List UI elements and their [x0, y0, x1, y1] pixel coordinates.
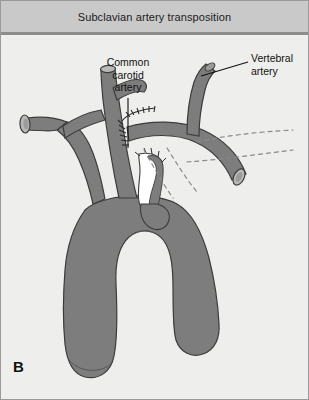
- label-common-carotid-artery: Common carotid artery: [97, 56, 159, 94]
- dashed-course-lower: [187, 150, 293, 162]
- aortic-arch-and-aorta: [64, 196, 220, 378]
- carotid-arch-junction-group: [63, 110, 105, 138]
- panel-letter: B: [13, 358, 24, 375]
- label-vertebral-line2: artery: [251, 65, 307, 78]
- label-carotid-line3: artery: [97, 81, 159, 94]
- carotid-arch-connecting-limb: [63, 110, 105, 138]
- label-vertebral-artery: Vertebral artery: [251, 52, 307, 77]
- brachiocephalic-trunk-group: [19, 115, 105, 204]
- illustration-canvas: Common carotid artery Vertebral artery B: [1, 38, 308, 399]
- label-carotid-line1: Common: [97, 56, 159, 69]
- label-vertebral-line1: Vertebral: [251, 52, 307, 65]
- dashed-origin-right: [167, 148, 197, 192]
- vertebral-artery: [187, 64, 215, 136]
- figure-panel: Subclavian artery transposition: [0, 0, 309, 400]
- figure-title: Subclavian artery transposition: [78, 11, 232, 23]
- figure-title-bar: Subclavian artery transposition: [1, 1, 308, 35]
- label-carotid-line2: carotid: [97, 69, 159, 82]
- aortic-arch-group: [64, 196, 220, 378]
